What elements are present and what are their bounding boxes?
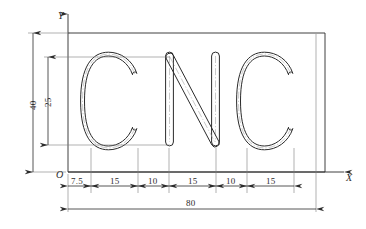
plate-outline <box>68 33 325 172</box>
letter-glyph-n <box>166 52 220 147</box>
dimension-label-15-a: 15 <box>110 177 119 186</box>
drawing-canvas: O X Y 7.5 15 10 15 10 15 80 40 25 <box>0 0 366 229</box>
coordinate-axes <box>68 14 344 172</box>
y-axis-label: Y <box>58 11 64 21</box>
x-axis-label: X <box>346 173 352 183</box>
dimension-label-10-a: 10 <box>148 177 157 186</box>
dimension-label-letter-height: 25 <box>44 98 53 107</box>
dimension-label-overall-height: 40 <box>29 101 38 110</box>
technical-drawing-svg <box>0 0 366 229</box>
dimension-label-7-5: 7.5 <box>71 177 83 186</box>
dimension-label-overall-width: 80 <box>186 199 195 208</box>
dimension-label-10-b: 10 <box>226 177 235 186</box>
origin-label: O <box>56 170 63 180</box>
dimension-label-15-b: 15 <box>188 177 197 186</box>
letter-glyph-c-2 <box>237 52 293 150</box>
letter-glyph-c-1 <box>81 52 137 150</box>
dimension-label-15-c: 15 <box>266 177 275 186</box>
